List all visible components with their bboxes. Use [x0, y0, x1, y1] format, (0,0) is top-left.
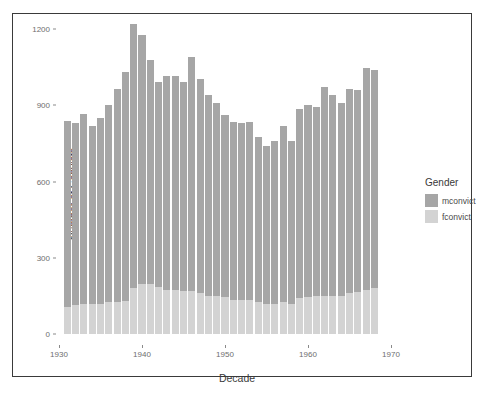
- bar-group: [313, 29, 320, 334]
- bar-group: [147, 29, 154, 334]
- bar-segment-fconvict: [280, 302, 287, 334]
- bar-group: [371, 29, 378, 334]
- bar-group: [338, 29, 345, 334]
- bar-segment-mconvict: [72, 123, 79, 305]
- bar-group: [122, 29, 129, 334]
- bar-group: [180, 29, 187, 334]
- bar-segment-fconvict: [354, 292, 361, 334]
- bar-segment-fconvict: [147, 284, 154, 334]
- bar-group: [163, 29, 170, 334]
- plot-area: [59, 29, 391, 334]
- legend-items: mconvictfconvict: [425, 194, 476, 223]
- x-tick-label: 1970: [382, 350, 400, 359]
- x-tick-label: 1930: [50, 350, 68, 359]
- bar-segment-fconvict: [263, 304, 270, 335]
- bar-segment-fconvict: [197, 293, 204, 334]
- x-tick-mark: [391, 345, 392, 348]
- y-tick-mark: [53, 334, 56, 335]
- bar-segment-fconvict: [97, 304, 104, 335]
- bar-segment-mconvict: [172, 76, 179, 290]
- screenshot-root: { "chart_data": { "type": "bar", "title"…: [0, 0, 485, 393]
- bar-segment-mconvict: [155, 82, 162, 287]
- bar-segment-mconvict: [64, 121, 71, 308]
- bar-segment-fconvict: [221, 297, 228, 334]
- bar-segment-mconvict: [263, 146, 270, 304]
- bar-segment-mconvict: [138, 35, 145, 284]
- x-tick-label: 1950: [216, 350, 234, 359]
- bar-segment-fconvict: [296, 298, 303, 334]
- bar-segment-mconvict: [371, 70, 378, 289]
- y-tick-label: 300: [13, 253, 50, 262]
- bar-segment-fconvict: [246, 300, 253, 334]
- bar-group: [205, 29, 212, 334]
- y-tick-label: 1200: [13, 25, 50, 34]
- y-tick-label: 0: [13, 330, 50, 339]
- bar-segment-fconvict: [230, 300, 237, 334]
- bar-segment-fconvict: [271, 304, 278, 335]
- bar-segment-mconvict: [122, 72, 129, 301]
- x-tick-mark: [225, 345, 226, 348]
- bar-segment-mconvict: [255, 137, 262, 302]
- bar-segment-fconvict: [122, 301, 129, 334]
- bar-segment-mconvict: [80, 114, 87, 303]
- bar-segment-mconvict: [230, 122, 237, 300]
- bar-segment-fconvict: [180, 291, 187, 334]
- bar-segment-fconvict: [255, 302, 262, 334]
- bar-segment-fconvict: [288, 304, 295, 335]
- bar-group: [363, 29, 370, 334]
- y-tick-mark: [53, 29, 56, 30]
- bar-segment-mconvict: [130, 24, 137, 288]
- bar-segment-mconvict: [288, 141, 295, 304]
- bar-group: [221, 29, 228, 334]
- bar-segment-mconvict: [89, 126, 96, 304]
- bar-group: [304, 29, 311, 334]
- legend-item[interactable]: mconvict: [425, 194, 476, 207]
- bar-segment-fconvict: [205, 296, 212, 334]
- bar-segment-mconvict: [321, 87, 328, 295]
- bar-segment-mconvict: [271, 141, 278, 304]
- bar-segment-fconvict: [346, 293, 353, 334]
- bar-segment-mconvict: [205, 95, 212, 296]
- bar-group: [64, 29, 71, 334]
- bar-segment-mconvict: [197, 79, 204, 294]
- bar-group: [230, 29, 237, 334]
- x-tick-mark: [142, 345, 143, 348]
- bar-segment-mconvict: [238, 123, 245, 300]
- bar-segment-fconvict: [114, 302, 121, 334]
- bar-group: [114, 29, 121, 334]
- legend-item-label: mconvict: [442, 196, 476, 206]
- legend-item-label: fconvict: [442, 212, 471, 222]
- bar-segment-mconvict: [246, 122, 253, 300]
- bar-group: [138, 29, 145, 334]
- bar-segment-mconvict: [180, 82, 187, 290]
- bar-group: [329, 29, 336, 334]
- bar-segment-mconvict: [296, 109, 303, 298]
- bar-segment-fconvict: [130, 288, 137, 334]
- bar-group: [80, 29, 87, 334]
- bar-segment-fconvict: [64, 307, 71, 334]
- legend: Gender mconvictfconvict: [425, 177, 476, 226]
- bar-group: [188, 29, 195, 334]
- bar-group: [172, 29, 179, 334]
- legend-swatch-icon: [425, 210, 438, 223]
- bar-segment-fconvict: [238, 300, 245, 334]
- legend-title: Gender: [425, 177, 476, 188]
- bar-segment-fconvict: [213, 296, 220, 334]
- bar-group: [238, 29, 245, 334]
- bar-segment-mconvict: [163, 76, 170, 290]
- bar-group: [354, 29, 361, 334]
- bar-segment-mconvict: [221, 115, 228, 297]
- bar-segment-mconvict: [147, 60, 154, 285]
- bar-group: [246, 29, 253, 334]
- bar-group: [321, 29, 328, 334]
- bar-segment-mconvict: [114, 89, 121, 303]
- x-tick-mark: [59, 345, 60, 348]
- legend-item[interactable]: fconvict: [425, 210, 476, 223]
- bar-segment-fconvict: [329, 296, 336, 334]
- bar-segment-mconvict: [213, 103, 220, 296]
- x-axis-title: Decade: [71, 372, 403, 384]
- bar-group: [346, 29, 353, 334]
- bar-segment-fconvict: [304, 297, 311, 334]
- bar-group: [89, 29, 96, 334]
- bar-segment-mconvict: [354, 90, 361, 292]
